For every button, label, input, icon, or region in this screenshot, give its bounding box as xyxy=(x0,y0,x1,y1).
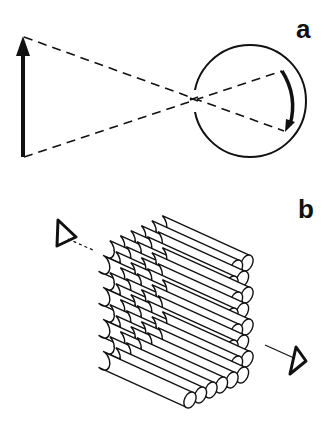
panel-b-rod-bundle xyxy=(0,0,332,430)
eye-symbol-left-icon xyxy=(57,220,93,250)
figure: a b xyxy=(0,0,332,430)
eye-symbol-right-icon xyxy=(265,345,306,374)
